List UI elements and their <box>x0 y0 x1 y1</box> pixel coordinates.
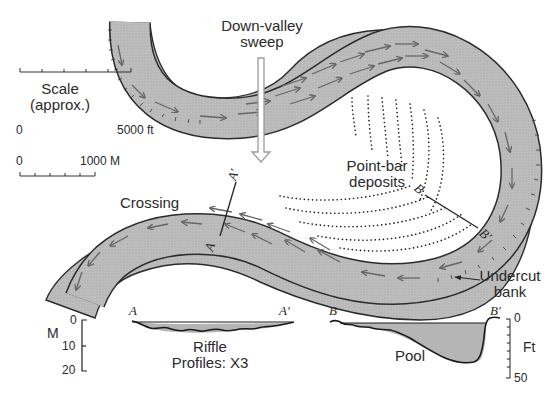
section-line-b <box>425 195 478 228</box>
depth-axis-meters-unit: M <box>47 326 59 341</box>
depth-axis-feet-tick-50: 50 <box>514 372 527 385</box>
pool-label: Pool <box>395 348 425 364</box>
depth-axis-meters-tick-10: 10 <box>62 340 75 353</box>
channel-map <box>0 0 559 399</box>
meander-diagram: Down-valley sweep Scale (approx.) 0 5000… <box>0 0 559 399</box>
scale-bar-meters <box>20 172 95 176</box>
profile-label-a-prime: A′ <box>279 304 290 318</box>
depth-axis-feet <box>506 319 510 378</box>
scale-meters-start: 0 <box>16 155 23 168</box>
depth-axis-meters <box>82 320 87 371</box>
profile-label-b: B <box>329 304 337 318</box>
point-bar-label: Point-bar deposits <box>332 158 422 190</box>
riffle-profile <box>132 321 294 333</box>
riffle-line2: Profiles: X3 <box>160 355 260 371</box>
scale-feet-start: 0 <box>16 124 23 137</box>
scale-title: Scale (approx.) <box>20 81 100 113</box>
scale-title-line2: (approx.) <box>20 97 100 113</box>
scale-title-line1: Scale <box>20 81 100 97</box>
scale-feet-end: 5000 ft <box>117 124 154 137</box>
point-bar-line1: Point-bar <box>332 158 422 174</box>
riffle-line1: Riffle <box>160 339 260 355</box>
depth-axis-meters-tick-0: 0 <box>70 314 77 327</box>
depth-axis-feet-unit: Ft <box>523 340 535 355</box>
depth-axis-meters-tick-20: 20 <box>62 364 75 377</box>
down-valley-line1: Down-valley <box>212 18 312 34</box>
depth-axis-feet-tick-0: 0 <box>514 312 521 325</box>
scale-meters-end: 1000 M <box>80 155 120 168</box>
crossing-label: Crossing <box>120 195 179 211</box>
undercut-line1: Undercut <box>470 268 550 284</box>
point-bar-line2: deposits <box>332 174 422 190</box>
profile-label-a: A <box>129 304 137 318</box>
riffle-label: Riffle Profiles: X3 <box>160 339 260 371</box>
down-valley-line2: sweep <box>212 34 312 50</box>
undercut-line2: bank <box>470 284 550 300</box>
profile-label-b-prime: B′ <box>490 304 501 318</box>
down-valley-label: Down-valley sweep <box>212 18 312 50</box>
undercut-bank-label: Undercut bank <box>470 268 550 300</box>
